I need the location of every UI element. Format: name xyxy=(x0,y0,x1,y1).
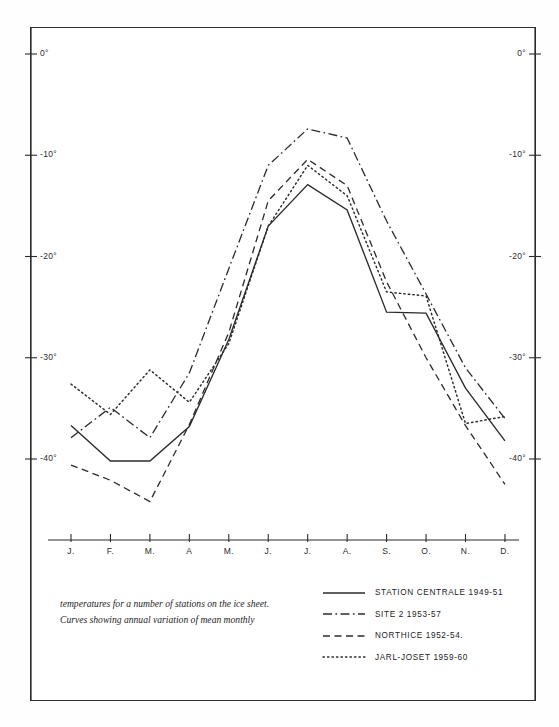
x-tick-label: M. xyxy=(217,546,241,556)
x-tick-label: J. xyxy=(59,546,83,556)
y-tick-label-right: -20° xyxy=(490,251,526,261)
dashed-line-icon xyxy=(322,631,366,641)
legend-item[interactable]: NORTHICE 1952-54. xyxy=(322,625,522,647)
x-tick-label: O. xyxy=(414,546,438,556)
x-tick-label: F. xyxy=(98,546,122,556)
x-tick-label: M. xyxy=(138,546,162,556)
y-tick-label-left: -20° xyxy=(40,251,57,261)
caption-line-1: temperatures for a number of stations on… xyxy=(60,596,330,612)
legend-item-label: NORTHICE 1952-54. xyxy=(375,631,463,640)
x-tick-label: S. xyxy=(375,546,399,556)
legend-item[interactable]: SITE 2 1953-57 xyxy=(322,604,522,626)
y-tick-label-left: -30° xyxy=(40,352,57,362)
y-tick-label-left: 0° xyxy=(40,48,49,58)
y-tick-label-right: -30° xyxy=(490,352,526,362)
y-tick-label-right: -40° xyxy=(490,453,526,463)
chart-legend: STATION CENTRALE 1949-51SITE 2 1953-57NO… xyxy=(322,582,522,668)
solid-line-icon xyxy=(322,588,366,598)
x-tick-label: A. xyxy=(335,546,359,556)
dash-dot-line-icon xyxy=(322,609,366,619)
y-tick-label-left: -10° xyxy=(40,149,57,159)
x-tick-label: J. xyxy=(296,546,320,556)
legend-item-label: JARL-JOSET 1959-60 xyxy=(375,653,468,662)
y-tick-label-right: -10° xyxy=(490,149,526,159)
x-tick-label: J. xyxy=(256,546,280,556)
y-tick-label-right: 0° xyxy=(490,48,526,58)
y-tick-label-left: -40° xyxy=(40,453,57,463)
figure-caption: temperatures for a number of stations on… xyxy=(60,596,330,628)
figure-page: 0°-10°-20°-30°-40° 0°-10°-20°-30°-40° J.… xyxy=(0,0,559,727)
legend-item[interactable]: JARL-JOSET 1959-60 xyxy=(322,647,522,669)
dotted-line-icon xyxy=(322,652,366,662)
legend-item[interactable]: STATION CENTRALE 1949-51 xyxy=(322,582,522,604)
caption-line-2: Curves showing annual variation of mean … xyxy=(60,612,330,628)
x-tick-label: A xyxy=(177,546,201,556)
x-tick-label: D. xyxy=(493,546,517,556)
legend-item-label: STATION CENTRALE 1949-51 xyxy=(375,588,503,597)
x-tick-label: N. xyxy=(454,546,478,556)
legend-item-label: SITE 2 1953-57 xyxy=(375,610,441,619)
